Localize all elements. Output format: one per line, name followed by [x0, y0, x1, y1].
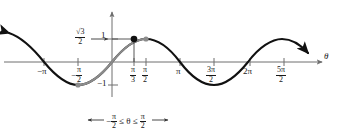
fraction-pi-2-right: π2 [142, 66, 148, 84]
x-tick-label-neg-pi-over-2: −π2 [71, 66, 82, 84]
x-tick-label-2pi: 2π [243, 67, 252, 76]
fraction-3pi-2: 3π2 [206, 66, 216, 84]
x-tick-label-pi: π [176, 67, 181, 76]
y-tick-label-one: 1 [101, 31, 106, 40]
marked-point [131, 36, 138, 43]
x-tick-label-pi-over-3: π3 [130, 66, 136, 84]
x-tick-label-5pi-over-2: 5π2 [276, 66, 286, 84]
x-axis-label-theta: θ [324, 52, 328, 61]
x-tick-label-3pi-over-2: 3π2 [206, 66, 216, 84]
y-tick-label-neg-one: −1 [97, 79, 107, 88]
value-label-sqrt3-over-2: √32 [75, 28, 85, 46]
x-tick-label-pi-over-2: π2 [142, 66, 148, 84]
domain-inequality-middle: ≤ θ ≤ [117, 117, 140, 126]
sine-curve-full [9, 33, 308, 85]
fraction-5pi-2: 5π2 [276, 66, 286, 84]
x-tick-label-neg-pi: −π [37, 67, 47, 76]
endpoint-dot-max [143, 36, 148, 41]
frac-denominator: 2 [76, 75, 82, 84]
fraction-sqrt3-2: √32 [75, 28, 85, 46]
frac-numerator: π [76, 66, 82, 74]
domain-restriction-note: −π2≤ θ ≤π2 [106, 113, 146, 131]
fraction-pi-2: π2 [76, 66, 82, 84]
fraction-pi-3: π3 [130, 66, 136, 84]
plot-canvas [0, 0, 339, 139]
domain-fraction-right: π2 [140, 113, 146, 131]
sine-graph-figure: −π −π2 π3 π2 π 3π2 2π 5π2 1 −1 θ √32 −π2… [0, 0, 339, 139]
